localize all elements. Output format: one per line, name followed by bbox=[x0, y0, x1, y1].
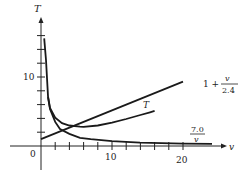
curve-T bbox=[48, 97, 155, 127]
line-label-numerator: v bbox=[225, 74, 230, 83]
x-tick-label-10: 10 bbox=[105, 152, 117, 162]
curves bbox=[41, 38, 212, 143]
origin-label: 0 bbox=[30, 149, 36, 159]
y-tick-label-10: 10 bbox=[23, 72, 35, 82]
line-label-denominator: 2.4 bbox=[222, 86, 235, 95]
x-axis-label: v bbox=[229, 142, 234, 152]
x-axis-arrow-icon bbox=[221, 144, 227, 149]
hyperbola-label-denominator: v bbox=[194, 135, 199, 144]
y-axis-label: T bbox=[34, 3, 42, 14]
hyperbola-label: 7.0 v bbox=[190, 125, 205, 144]
hyperbola-label-numerator: 7.0 bbox=[191, 125, 204, 134]
x-tick-label-20: 20 bbox=[176, 155, 188, 165]
chart: T v 0 10 10 20 T 1 + v 2.4 7.0 v bbox=[0, 0, 244, 183]
line-label: 1 + v 2.4 bbox=[203, 74, 238, 95]
line-label-prefix: 1 + bbox=[203, 79, 219, 89]
y-axis-arrow-icon bbox=[39, 17, 44, 23]
curve-T-label: T bbox=[143, 100, 150, 110]
axes bbox=[10, 22, 222, 170]
